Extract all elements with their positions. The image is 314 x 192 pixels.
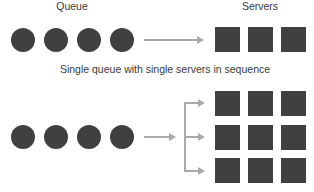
arrow-icon [144,36,204,44]
arrows [0,0,314,192]
arrow-icon [144,133,176,141]
branch-bracket-icon [184,99,205,175]
